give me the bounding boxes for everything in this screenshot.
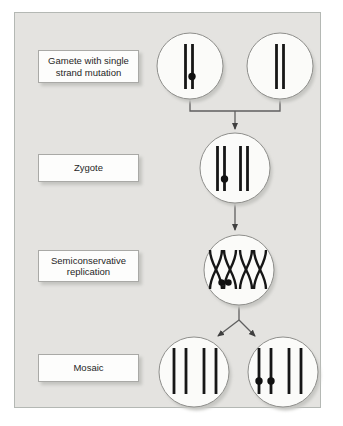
mutation-dot — [188, 73, 195, 80]
label-gamete: Gamete with single strand mutation — [38, 50, 139, 83]
figure-page: Gamete with single strand mutation Zygot… — [0, 0, 343, 426]
label-replication: Semiconservative replication — [38, 250, 139, 282]
gamete-mutant-cell — [157, 33, 226, 103]
cell-membrane — [157, 33, 223, 99]
replication-cell — [204, 235, 277, 309]
label-zygote: Zygote — [38, 154, 139, 182]
cell-membrane — [159, 337, 229, 407]
label-gamete-line1: Gamete with single — [48, 55, 129, 67]
label-mosaic: Mosaic — [38, 354, 139, 382]
gamete-normal-cell — [247, 33, 316, 103]
cell-membrane — [247, 33, 313, 99]
gamete-merge-connector — [190, 99, 280, 111]
mutation-dot — [267, 377, 274, 384]
mutation-dot — [218, 279, 224, 285]
label-replication-line2: replication — [67, 266, 110, 278]
mutation-dot — [221, 175, 228, 182]
label-mosaic-line1: Mosaic — [73, 362, 103, 374]
mutation-dot — [255, 377, 262, 384]
mosaic-mutant-cell — [248, 337, 321, 411]
arrow-to-mosaic-left-icon — [218, 320, 239, 336]
zygote-cell — [200, 133, 273, 207]
arrow-to-mosaic-right-icon — [239, 320, 255, 336]
mutation-dot — [225, 279, 231, 285]
label-zygote-line1: Zygote — [74, 162, 103, 174]
label-replication-line1: Semiconservative — [51, 255, 126, 267]
label-gamete-line2: strand mutation — [56, 67, 121, 79]
cell-membrane — [200, 133, 270, 203]
mosaic-normal-cell — [159, 337, 232, 411]
